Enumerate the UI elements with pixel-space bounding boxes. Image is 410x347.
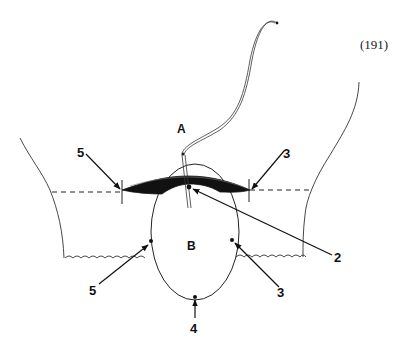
callout-upper-3: 3	[283, 146, 290, 161]
region-label-a: A	[177, 122, 186, 136]
point-2	[187, 185, 192, 190]
leader-2	[193, 189, 332, 255]
callout-upper-5: 5	[77, 145, 84, 160]
callout-2: 2	[334, 250, 341, 265]
leader-upper-5	[86, 154, 120, 189]
callout-lower-5: 5	[89, 283, 96, 298]
callout-lower-3: 3	[277, 285, 284, 300]
leader-upper-3	[252, 151, 284, 189]
point-3-lower	[230, 238, 234, 242]
region-label-b: B	[187, 239, 196, 253]
wire-end-dot	[276, 22, 279, 25]
leader-lower-3	[235, 243, 279, 287]
callout-4: 4	[190, 321, 198, 336]
leader-lower-5	[99, 245, 148, 284]
point-5-lower	[149, 239, 153, 243]
left-outline	[20, 138, 64, 258]
suture-diagram: (191) A B 5 3 2 5 3 4	[0, 0, 410, 347]
needle-wire-outer	[184, 21, 277, 154]
point-4	[193, 295, 197, 299]
needle-wire-inner	[182, 22, 275, 153]
figure-number: (191)	[360, 37, 388, 52]
right-outline	[303, 82, 359, 257]
